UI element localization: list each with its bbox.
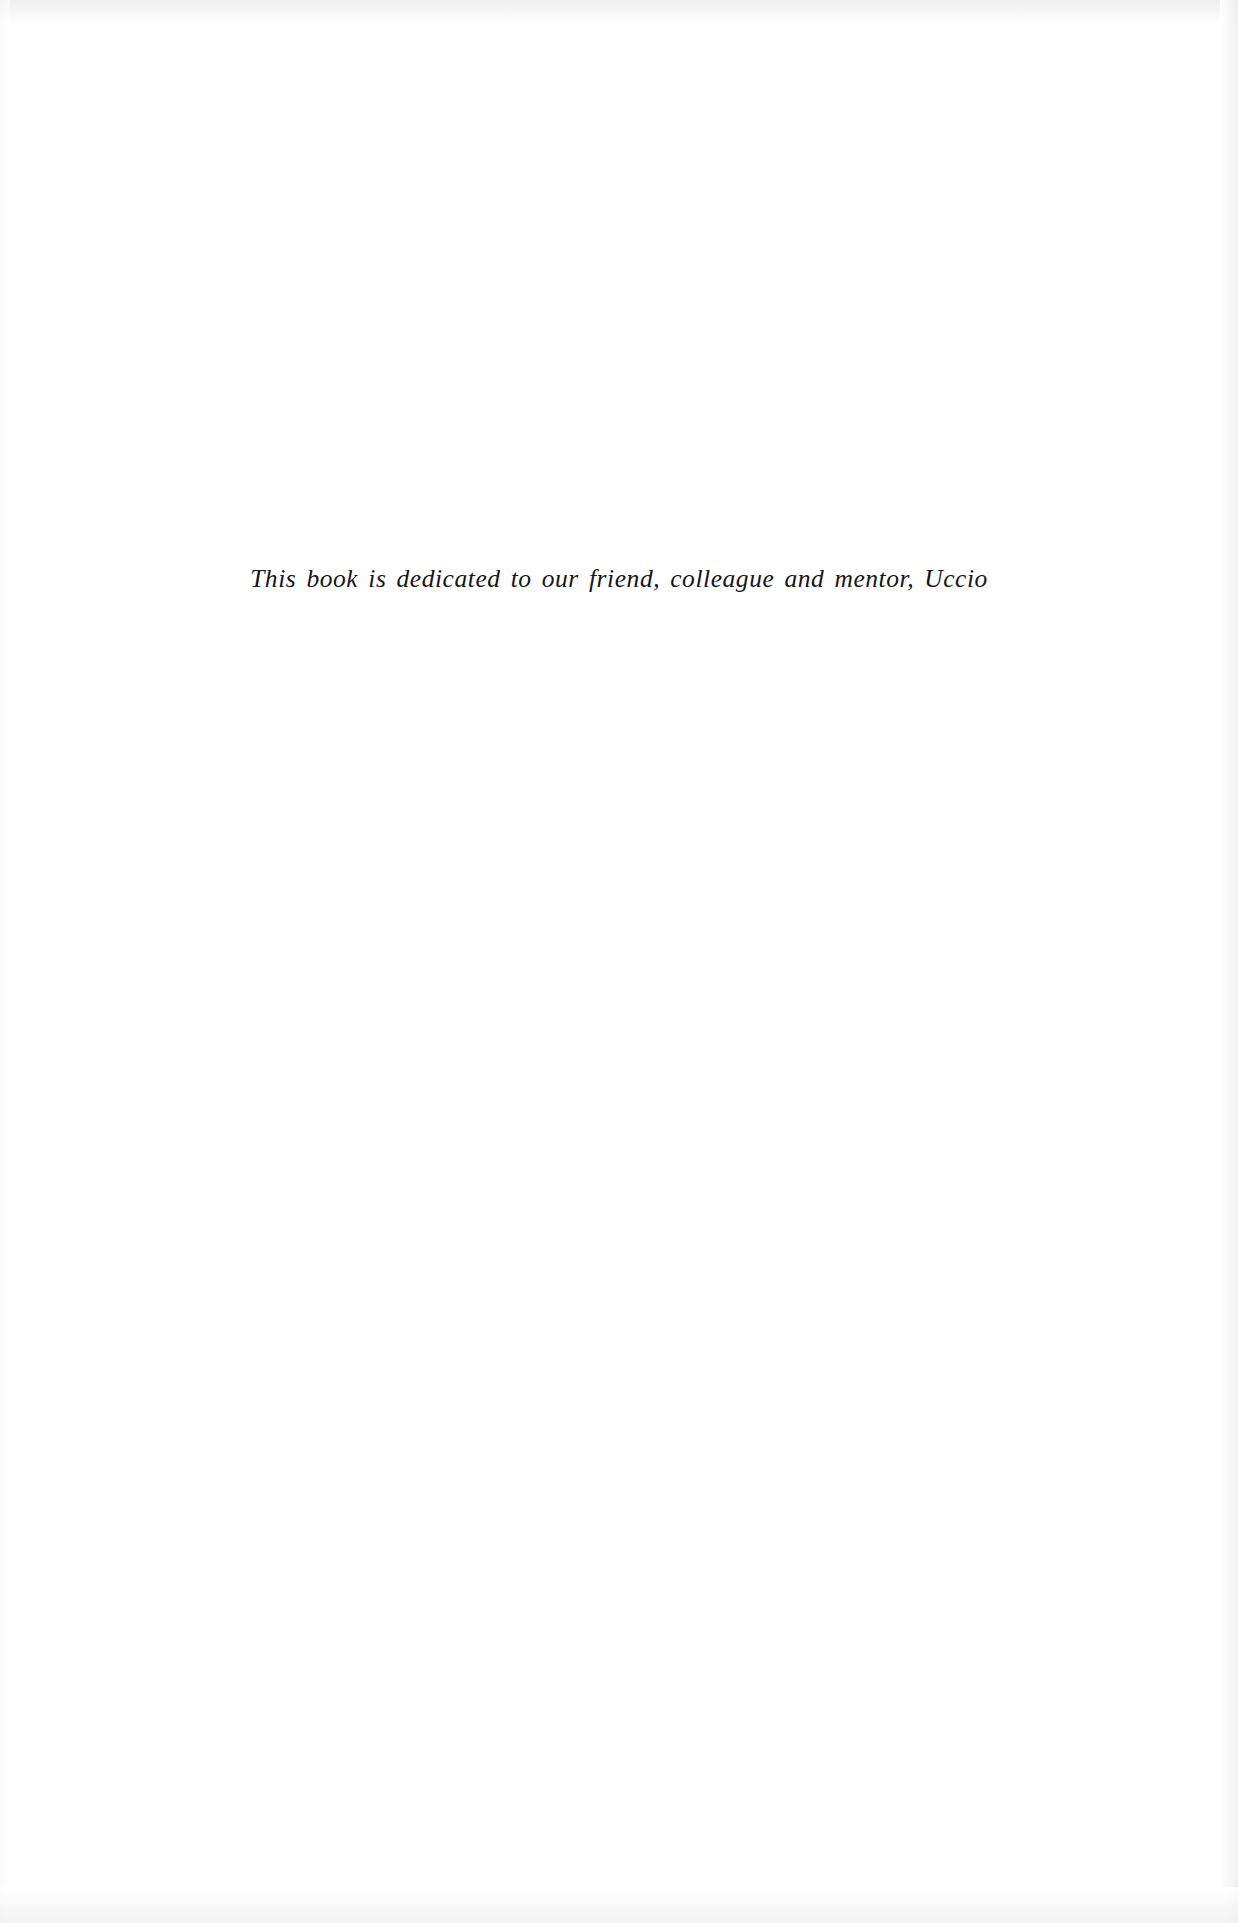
dedication-text: This book is dedicated to our friend, co… <box>250 562 988 595</box>
scan-edge-artifact-top <box>0 0 1238 26</box>
scan-edge-artifact-left <box>0 0 10 1923</box>
scanned-page: This book is dedicated to our friend, co… <box>0 0 1238 1923</box>
scan-edge-artifact-right <box>1220 0 1238 1923</box>
dedication-block: This book is dedicated to our friend, co… <box>0 562 1238 595</box>
scan-edge-artifact-bottom <box>0 1887 1238 1923</box>
